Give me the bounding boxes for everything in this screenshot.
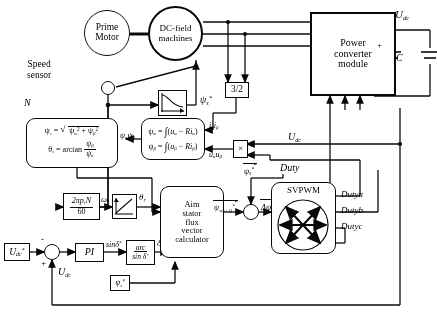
capacitor-label: C bbox=[396, 52, 403, 63]
saturation-curve-icon bbox=[159, 91, 186, 115]
udc-reference-block[interactable]: Udc* bbox=[4, 243, 30, 261]
arcsin-block[interactable]: arc sin δ* bbox=[126, 240, 155, 265]
dutyb-label: Dutyb bbox=[341, 205, 363, 215]
udc-ref-label: Udc* bbox=[9, 247, 25, 258]
n-signal-label: N bbox=[24, 97, 31, 108]
pi-label: PI bbox=[85, 247, 94, 258]
flux-magnitude-angle-block[interactable]: ψs = ψα2 + ψβ2 θs = arctan ψβ ψα bbox=[26, 118, 118, 168]
svpwm-label: SVPWM bbox=[287, 186, 320, 195]
multiplier-label: × bbox=[238, 144, 243, 153]
sum-minus-sign: - bbox=[41, 234, 44, 244]
delta-psi-label: Δψ bbox=[261, 202, 271, 212]
dc-field-machines-label: DC-fieldmachines bbox=[159, 24, 193, 43]
sum-plus-sign: + bbox=[41, 258, 46, 268]
sin-delta-label: sinδ* bbox=[106, 240, 122, 249]
three-two-label: 3/2 bbox=[231, 85, 243, 95]
psi-vector-ref-label: ψs* bbox=[244, 166, 254, 176]
dc-field-machines-block[interactable]: DC-fieldmachines bbox=[148, 6, 203, 61]
udc-mid-label: Udc bbox=[288, 131, 301, 143]
udc-feedback-label: Udc bbox=[58, 266, 71, 278]
multiplier-block[interactable]: × bbox=[233, 140, 248, 158]
ramp-icon bbox=[113, 195, 136, 218]
psi-alpha-formula: ψα = ∫(uα − Riα) bbox=[148, 126, 197, 137]
dutyc-label: Dutyc bbox=[341, 221, 363, 231]
omega-r-label: ωr bbox=[101, 194, 109, 204]
speed-gain-formula: 2πprN 60 bbox=[70, 197, 93, 215]
speed-sensor-node[interactable] bbox=[101, 81, 115, 95]
power-converter-module-block[interactable]: Powerconvertermodule bbox=[310, 12, 396, 96]
psi-beta-formula: ψβ = ∫(uβ − Riβ) bbox=[149, 141, 198, 152]
flux-integrator-block[interactable]: ψα = ∫(uα − Riα) ψβ = ∫(uβ − Riβ) bbox=[141, 118, 205, 160]
flux-magnitude-formula: ψs = ψα2 + ψβ2 bbox=[45, 126, 99, 136]
psi-alpha-beta-label: ψαψβ bbox=[120, 131, 135, 140]
dutya-label: Dutya bbox=[341, 189, 363, 199]
aim-flux-vector-calculator-block[interactable]: Aimstatorfluxvectorcalculator bbox=[160, 186, 224, 258]
aim-calc-label: Aimstatorfluxvectorcalculator bbox=[175, 200, 209, 245]
flux-angle-formula: θs = arctan ψβ ψα bbox=[48, 140, 95, 160]
prime-motor-label: PrimeMotor bbox=[95, 23, 119, 43]
theta-r-label: θr bbox=[139, 192, 146, 203]
speed-sensor-label: Speed sensor bbox=[27, 59, 51, 80]
psi-s-star-label: ψs* bbox=[200, 94, 212, 106]
i-alpha-beta-label: iαiβ bbox=[209, 121, 219, 130]
three-to-two-transform-block[interactable]: 3/2 bbox=[225, 82, 249, 98]
pi-controller-block[interactable]: PI bbox=[75, 243, 104, 262]
flux-reference-block[interactable]: ψs* bbox=[110, 275, 130, 291]
speed-gain-block[interactable]: 2πprN 60 bbox=[63, 193, 100, 220]
flux-characteristic-block[interactable] bbox=[158, 90, 187, 116]
u-alpha-beta-label: uαuβ bbox=[209, 150, 222, 159]
control-block-diagram: PrimeMotor DC-fieldmachines Powerconvert… bbox=[0, 0, 437, 314]
power-converter-label: Powerconvertermodule bbox=[334, 38, 372, 70]
capacitor-plus-sign: + bbox=[377, 40, 382, 50]
duty-label: Duty bbox=[280, 162, 299, 173]
prime-motor-block[interactable]: PrimeMotor bbox=[84, 10, 130, 56]
flux-reference-label: ψs* bbox=[115, 279, 125, 288]
psi-vector-k1-label: ψs(k+1)* bbox=[214, 203, 235, 213]
arcsin-denominator: sin δ* bbox=[132, 252, 149, 261]
udc-top-label: Udc bbox=[395, 8, 409, 21]
integrator-ramp-block[interactable] bbox=[112, 194, 137, 219]
space-vector-star-icon bbox=[276, 198, 330, 252]
voltage-sum-junction[interactable] bbox=[44, 244, 60, 260]
flux-error-sum-junction[interactable] bbox=[243, 204, 259, 220]
arcsin-numerator: arc bbox=[134, 244, 148, 253]
